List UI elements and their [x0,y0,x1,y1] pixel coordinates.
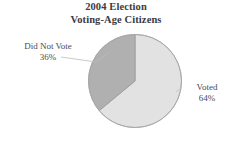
slice-label-did-not-vote-value: 36% [6,52,90,63]
slice-label-voted-name: Voted [184,82,230,93]
slice-label-voted: Voted 64% [184,82,230,104]
pie-chart-graphic [0,0,232,142]
pie-chart-figure: 2004 Election Voting-Age Citizens Did No… [0,0,232,142]
slice-label-voted-value: 64% [184,93,230,104]
slice-label-did-not-vote: Did Not Vote 36% [6,41,90,63]
slice-label-did-not-vote-name: Did Not Vote [6,41,90,52]
